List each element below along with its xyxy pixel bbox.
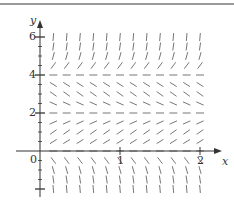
slope-segments [49, 33, 204, 193]
slope-segment [79, 52, 81, 60]
slope-segment [90, 92, 97, 97]
slope-segment [50, 121, 57, 124]
slope-segment [52, 52, 54, 60]
slope-segment [53, 185, 54, 193]
slope-segment [173, 185, 174, 193]
slope-segment [171, 62, 176, 68]
slope-segment [106, 176, 107, 184]
slope-segment [77, 82, 84, 86]
slope-segment [91, 62, 96, 68]
slope-segment [53, 33, 54, 41]
x-tick-label-2: 2 [197, 154, 204, 167]
slope-segment [66, 52, 68, 60]
slope-segment [160, 33, 161, 41]
slope-segment [63, 82, 70, 86]
slope-segment [196, 102, 203, 105]
slope-segment [77, 130, 84, 135]
slope-segment [183, 92, 190, 97]
slope-segment [146, 52, 148, 60]
slope-segment [116, 121, 123, 124]
slope-segment [80, 185, 81, 193]
x-tick-label-1: 1 [117, 154, 124, 167]
slope-segment [157, 139, 164, 143]
slope-segment [103, 92, 110, 97]
slope-segment [146, 43, 147, 51]
slope-segment [66, 33, 67, 41]
slope-segment [77, 92, 84, 97]
slope-segment [77, 139, 84, 143]
slope-segment [76, 102, 83, 105]
slope-segment [186, 33, 187, 41]
slope-segment [146, 33, 147, 41]
slope-segment [184, 62, 189, 68]
slope-segment [106, 52, 108, 60]
slope-segment [143, 121, 150, 124]
slope-segment [171, 157, 176, 163]
slope-segment [132, 166, 134, 174]
slope-segment [156, 102, 163, 105]
slope-segment [173, 176, 174, 184]
slope-segment [103, 130, 110, 135]
slope-segment [157, 82, 164, 86]
slope-segment [159, 176, 160, 184]
slope-segment [133, 185, 134, 193]
slope-segment [50, 92, 57, 97]
slope-segment [170, 130, 177, 135]
slope-segment [78, 62, 83, 68]
slope-segment [144, 157, 149, 163]
slope-segment [50, 82, 57, 86]
slope-segment [186, 185, 187, 193]
slope-segment [106, 185, 107, 193]
slope-segment [183, 139, 190, 143]
slope-field-plot: y x 0 6 4 2 1 2 [0, 0, 234, 208]
slope-segment [199, 176, 200, 184]
slope-segment [156, 121, 163, 124]
slope-segment [200, 33, 201, 41]
slope-segment [51, 157, 56, 163]
slope-segment [183, 82, 190, 86]
slope-segment [53, 176, 54, 184]
slope-segment [90, 121, 97, 124]
slope-segment [66, 43, 67, 51]
slope-segment [103, 82, 110, 86]
slope-segment [146, 176, 147, 184]
slope-segment [130, 102, 137, 105]
slope-segment [103, 102, 110, 105]
slope-segment [90, 82, 97, 86]
slope-segment [184, 157, 189, 163]
slope-segment [117, 82, 124, 86]
slope-segment [173, 43, 174, 51]
slope-segment [183, 130, 190, 135]
slope-segment [130, 121, 137, 124]
slope-segment [200, 185, 201, 193]
slope-segment [143, 82, 150, 86]
slope-segment [131, 157, 136, 163]
slope-segment [79, 43, 80, 51]
y-tick-label-2: 2 [29, 106, 36, 119]
slope-segment [64, 157, 69, 163]
slope-segment [130, 130, 137, 135]
slope-segment [130, 82, 137, 86]
slope-segment [144, 62, 149, 68]
slope-segment [119, 166, 121, 174]
slope-segment [170, 139, 177, 143]
slope-segment [173, 33, 174, 41]
slope-segment [186, 43, 187, 51]
slope-segment [120, 185, 121, 193]
slope-segment [157, 130, 164, 135]
slope-segment [131, 62, 136, 68]
slope-segment [198, 62, 203, 68]
y-tick-label-4: 4 [29, 68, 36, 81]
slope-segment [119, 176, 120, 184]
slope-segment [160, 185, 161, 193]
slope-segment [63, 130, 70, 135]
slope-segment [143, 102, 150, 105]
slope-segment [158, 157, 163, 163]
slope-segment [120, 33, 121, 41]
y-axis-label: y [29, 14, 37, 27]
slope-segment [117, 139, 124, 143]
slope-segment [159, 52, 161, 60]
slope-segment [172, 166, 174, 174]
slope-segment [133, 176, 134, 184]
slope-segment [63, 92, 70, 97]
